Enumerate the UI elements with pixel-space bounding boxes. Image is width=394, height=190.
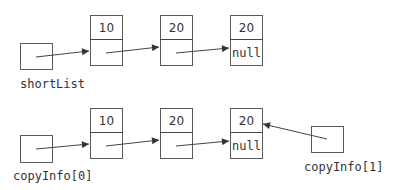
node-value: 20 [239, 114, 254, 128]
node-3: 20 null [231, 109, 263, 159]
row-shortlist: shortList 10 20 20 null [20, 16, 263, 92]
node-1: 10 [91, 109, 123, 159]
node-value: 10 [99, 114, 114, 128]
pointer-box-copyinfo-1 [312, 127, 344, 153]
row-copyinfo: copyInfo[0] 10 20 20 null copyInfo[1] [13, 109, 383, 184]
pointer-label-copyinfo-0: copyInfo[0] [13, 169, 92, 183]
node-value: 10 [99, 21, 114, 35]
pointer-label-copyinfo-1: copyInfo[1] [304, 160, 383, 174]
pointer-label-shortlist: shortList [20, 77, 85, 91]
node-2: 20 [161, 16, 193, 66]
linked-list-diagram: shortList 10 20 20 null copyInfo[0] [0, 0, 394, 190]
node-next-null: null [232, 139, 261, 153]
node-3: 20 null [231, 16, 263, 66]
node-value: 20 [169, 114, 184, 128]
node-next-null: null [232, 46, 261, 60]
node-1: 10 [91, 16, 123, 66]
node-value: 20 [239, 21, 254, 35]
node-2: 20 [161, 109, 193, 159]
node-value: 20 [169, 21, 184, 35]
